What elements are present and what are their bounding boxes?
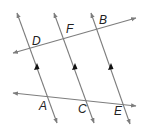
point-label-A: A: [38, 99, 47, 113]
point-label-E: E: [114, 104, 123, 118]
parallel-mark-icon: [34, 63, 40, 70]
point-label-B: B: [99, 13, 107, 27]
point-label-C: C: [78, 102, 87, 116]
parallel-lines-diagram: D F B A C E: [0, 0, 146, 131]
point-label-D: D: [32, 34, 41, 48]
point-label-F: F: [66, 22, 74, 36]
